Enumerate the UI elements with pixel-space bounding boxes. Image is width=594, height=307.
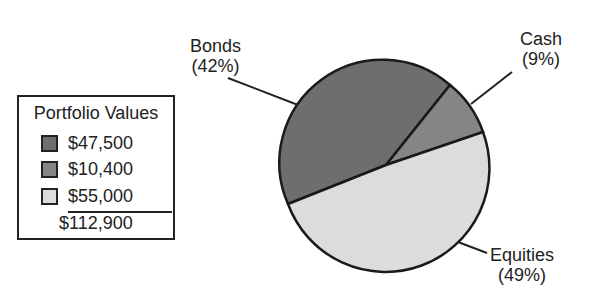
legend-value: $47,500 [68, 133, 133, 154]
leader-line-cash [471, 72, 512, 104]
legend-item-cash: $10,400 [41, 158, 133, 180]
label-cash: Cash (9%) [520, 29, 562, 69]
leader-line-equities [458, 242, 487, 253]
legend-title: Portfolio Values [19, 103, 173, 124]
label-bonds-name: Bonds [190, 36, 241, 56]
label-cash-name: Cash [520, 29, 562, 49]
legend-swatch-equities [41, 188, 58, 205]
legend-value: $55,000 [68, 186, 133, 207]
legend-item-bonds: $47,500 [41, 132, 133, 154]
label-equities-pct: (49%) [490, 265, 554, 285]
leader-line-bonds [228, 78, 298, 105]
legend-box: Portfolio Values $47,500 $10,400 $55,000… [17, 95, 175, 240]
legend-swatch-cash [41, 161, 58, 178]
legend-item-equities: $55,000 [41, 185, 133, 207]
legend-swatch-bonds [41, 135, 58, 152]
legend-total: $112,900 [59, 213, 133, 234]
label-equities-name: Equities [490, 245, 554, 265]
label-cash-pct: (9%) [520, 49, 562, 69]
legend-value: $10,400 [68, 159, 133, 180]
label-equities: Equities (49%) [490, 245, 554, 285]
label-bonds-pct: (42%) [190, 56, 241, 76]
label-bonds: Bonds (42%) [190, 36, 241, 76]
